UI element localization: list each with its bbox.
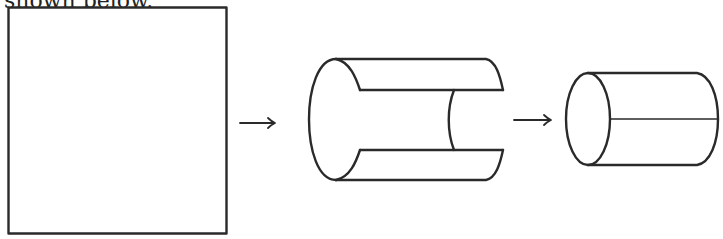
- closed-cylinder: [566, 73, 718, 165]
- square-sheet: [9, 8, 227, 234]
- arrow-1-icon: [240, 118, 275, 128]
- arrow-2-icon: [514, 115, 551, 125]
- diagram-canvas: [0, 0, 723, 239]
- partially-rolled-cylinder: [309, 59, 503, 180]
